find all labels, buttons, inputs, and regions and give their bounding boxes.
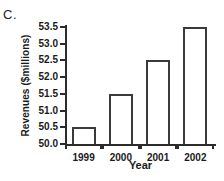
y-axis-tick-label: 50.5 xyxy=(39,122,58,132)
bar-2000 xyxy=(109,94,133,144)
y-axis-tick xyxy=(60,43,65,45)
x-axis-tick xyxy=(212,144,214,149)
y-axis-tick xyxy=(60,59,65,61)
x-axis-tick-label: 2002 xyxy=(184,153,206,163)
y-axis-tick-label: 53.0 xyxy=(39,39,58,49)
x-axis-tick-label: 2000 xyxy=(110,153,132,163)
plot-area: 50.050.551.051.552.052.553.053.519992000… xyxy=(65,27,214,144)
y-axis-tick-label: 51.0 xyxy=(39,106,58,116)
bar-1999 xyxy=(72,127,96,144)
y-axis-tick xyxy=(60,26,65,28)
y-axis-tick xyxy=(60,126,65,128)
bar-chart: Revenues ($millions) Year 50.050.551.051… xyxy=(0,0,224,181)
x-axis-tick-label: 2001 xyxy=(147,153,169,163)
y-axis-title: Revenues ($millions) xyxy=(18,27,32,144)
y-axis-tick-label: 50.0 xyxy=(39,139,58,149)
y-axis-tick-label: 51.5 xyxy=(39,89,58,99)
x-axis-tick xyxy=(140,144,142,149)
x-axis-tick-label: 1999 xyxy=(73,153,95,163)
y-axis-tick xyxy=(60,93,65,95)
x-axis-tick xyxy=(177,144,179,149)
y-axis-tick-label: 52.0 xyxy=(39,72,58,82)
y-axis-tick xyxy=(60,110,65,112)
x-axis-tick xyxy=(65,144,67,149)
y-axis-tick-label: 53.5 xyxy=(39,22,58,32)
y-axis-tick xyxy=(60,76,65,78)
bar-2001 xyxy=(146,60,170,144)
x-axis-tick xyxy=(102,144,104,149)
bar-2002 xyxy=(183,27,207,144)
y-axis-tick-label: 52.5 xyxy=(39,55,58,65)
